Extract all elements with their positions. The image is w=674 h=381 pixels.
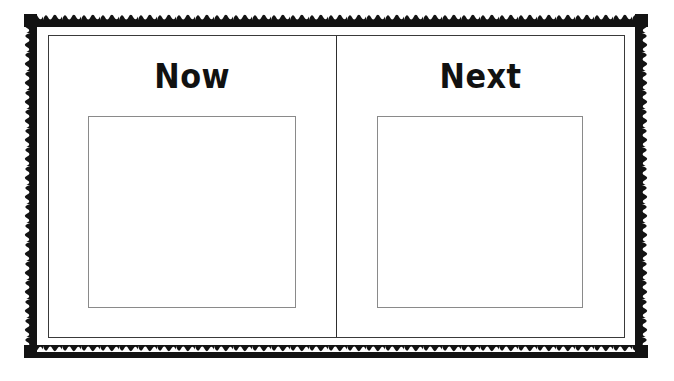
panel-title-next: Next [439, 60, 521, 93]
panel-title-now: Now [154, 60, 230, 93]
panel-next: Next [337, 36, 625, 337]
panel-container: Now Next [49, 36, 624, 337]
panel-now: Now [49, 36, 337, 337]
now-next-board: Now Next [0, 0, 674, 381]
card-slot-next[interactable] [377, 116, 583, 308]
card-slot-now[interactable] [88, 116, 296, 308]
